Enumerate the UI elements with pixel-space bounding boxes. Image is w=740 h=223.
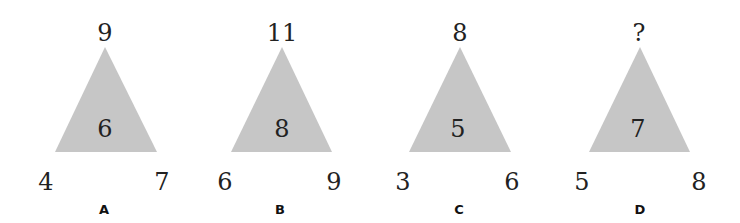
triangle-b-bottom-left-number: 6 (217, 170, 232, 194)
number-triangle-puzzle: 9 6 4 7 A 11 8 6 9 B 8 5 3 6 C ? 7 5 8 D (0, 0, 740, 223)
triangle-b-bottom-right-number: 9 (326, 170, 341, 194)
triangle-d-center-number: 7 (630, 117, 645, 141)
triangle-b-top-number: 11 (267, 21, 298, 45)
triangle-b-center-number: 8 (274, 117, 289, 141)
triangle-c-label: C (454, 203, 464, 216)
triangle-c-bottom-left-number: 3 (395, 170, 410, 194)
triangle-c-center-number: 5 (450, 117, 465, 141)
triangle-c-bottom-right-number: 6 (504, 170, 519, 194)
triangle-c-top-number: 8 (452, 21, 467, 45)
triangle-a-center-number: 6 (97, 117, 112, 141)
triangle-a-label: A (99, 203, 109, 216)
triangle-a-bottom-left-number: 4 (38, 170, 53, 194)
triangle-b-label: B (275, 203, 285, 216)
triangle-d-bottom-left-number: 5 (574, 170, 589, 194)
triangle-d-bottom-right-number: 8 (691, 170, 706, 194)
triangle-d-top-number: ? (633, 21, 646, 45)
triangle-a-bottom-right-number: 7 (154, 170, 169, 194)
triangle-d-label: D (635, 203, 646, 216)
triangle-a-top-number: 9 (97, 21, 112, 45)
